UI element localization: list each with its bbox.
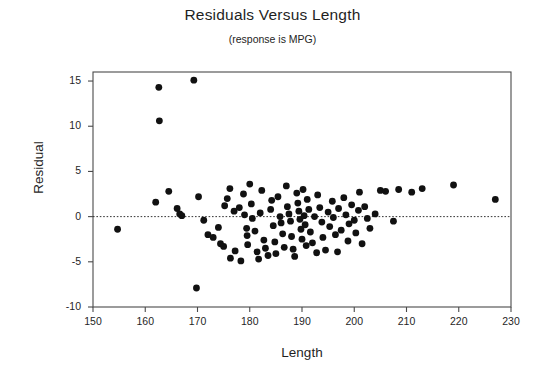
data-points [114, 77, 499, 292]
data-point [300, 186, 307, 193]
data-point [355, 207, 362, 214]
data-point [348, 201, 355, 208]
data-point [419, 185, 426, 192]
data-point [200, 217, 207, 224]
data-point [356, 189, 363, 196]
data-point [237, 258, 244, 265]
data-point [301, 212, 308, 219]
data-point [364, 215, 371, 222]
x-tick-label: 200 [337, 315, 371, 327]
data-point [294, 200, 301, 207]
data-point [227, 255, 234, 262]
x-tick-label: 160 [128, 315, 162, 327]
data-point [252, 228, 259, 235]
data-point [395, 186, 402, 193]
data-point [260, 237, 267, 244]
x-tick-label: 180 [233, 315, 267, 327]
data-point [165, 188, 172, 195]
data-point [345, 238, 352, 245]
data-point [241, 211, 248, 218]
data-point [287, 218, 294, 225]
data-point [232, 248, 239, 255]
data-point [290, 246, 297, 253]
data-point [320, 234, 327, 241]
data-point [221, 202, 228, 209]
data-point [359, 240, 366, 247]
data-point [305, 206, 312, 213]
y-tick-label: 0 [51, 210, 81, 222]
data-point [335, 205, 342, 212]
data-point [332, 231, 339, 238]
data-point [325, 209, 332, 216]
data-point [248, 201, 255, 208]
data-point [329, 198, 336, 205]
data-point [316, 204, 323, 211]
data-point [262, 245, 269, 252]
data-point [267, 206, 274, 213]
data-point [215, 224, 222, 231]
data-point [299, 236, 306, 243]
data-point [351, 217, 358, 224]
data-point [367, 225, 374, 232]
data-point [352, 229, 359, 236]
data-point [243, 225, 250, 232]
data-point [155, 84, 162, 91]
data-point [271, 239, 278, 246]
data-point [249, 215, 256, 222]
data-point [258, 187, 265, 194]
x-tick-label: 190 [285, 315, 319, 327]
data-point [281, 244, 288, 251]
data-point [334, 248, 341, 255]
data-point [492, 196, 499, 203]
data-point [178, 212, 185, 219]
data-point [293, 190, 300, 197]
data-point [210, 234, 217, 241]
x-tick-label: 230 [494, 315, 528, 327]
data-point [195, 193, 202, 200]
data-point [156, 117, 163, 124]
data-point [338, 227, 345, 234]
data-point [224, 195, 231, 202]
data-point [295, 208, 302, 215]
y-axis-ticks [88, 81, 93, 307]
data-point [246, 181, 253, 188]
data-point [286, 211, 293, 218]
y-tick-label: -10 [51, 300, 81, 312]
data-point [236, 204, 243, 211]
data-point [193, 285, 200, 292]
data-point [361, 203, 368, 210]
data-point [326, 223, 333, 230]
data-point [382, 188, 389, 195]
y-tick-label: -5 [51, 255, 81, 267]
data-point [291, 253, 298, 260]
data-point [408, 189, 415, 196]
data-point [450, 182, 457, 189]
data-point [278, 220, 285, 227]
data-point [313, 249, 320, 256]
data-point [314, 192, 321, 199]
data-point [307, 229, 314, 236]
data-point [303, 242, 310, 249]
data-point [318, 219, 325, 226]
data-point [265, 252, 272, 259]
data-point [330, 214, 337, 221]
data-point [272, 250, 279, 257]
data-point [240, 191, 247, 198]
data-point [283, 182, 290, 189]
data-point [190, 77, 197, 84]
data-point [342, 211, 349, 218]
data-point [114, 226, 121, 233]
y-tick-label: 10 [51, 119, 81, 131]
data-point [340, 194, 347, 201]
data-point [288, 233, 295, 240]
x-axis-ticks [93, 307, 511, 312]
residual-plot-figure: Residuals Versus Length (response is MPG… [0, 0, 545, 379]
x-tick-label: 150 [76, 315, 110, 327]
data-point [270, 222, 277, 229]
data-point [275, 193, 282, 200]
x-tick-label: 210 [390, 315, 424, 327]
data-point [255, 256, 262, 263]
data-point [244, 241, 251, 248]
data-point [309, 239, 316, 246]
data-point [152, 199, 159, 206]
